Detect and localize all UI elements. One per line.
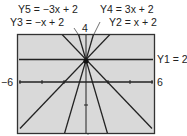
label-y1: Y1 = 2 xyxy=(157,54,187,65)
label-xmax: 6 xyxy=(157,77,163,88)
label-y5: Y5 = −3x + 2 xyxy=(18,4,78,15)
intersection-point xyxy=(83,58,88,63)
label-ymax: 4 xyxy=(82,23,88,34)
label-y2: Y2 = x + 2 xyxy=(109,17,157,28)
label-y4: Y4 = 3x + 2 xyxy=(100,4,154,15)
label-xmin: −6 xyxy=(1,77,13,88)
label-y3: Y3 = −x + 2 xyxy=(10,17,64,28)
